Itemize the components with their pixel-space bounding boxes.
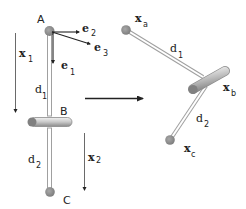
ball-xc [165, 135, 175, 145]
svg-text:3: 3 [103, 49, 108, 58]
svg-text:x: x [223, 81, 230, 94]
label-a: A [37, 13, 45, 26]
label-xb: x b [223, 81, 236, 98]
ball-c [45, 187, 55, 197]
label-x2: x 2 [88, 151, 101, 165]
label-d2-left: d 2 [28, 153, 41, 170]
svg-text:b: b [231, 89, 236, 98]
label-e2: e 2 [82, 22, 96, 38]
svg-text:x: x [135, 12, 142, 25]
label-xa: x a [135, 12, 148, 29]
svg-text:2: 2 [36, 161, 41, 170]
svg-text:1: 1 [28, 55, 33, 64]
label-b: B [60, 105, 68, 118]
ball-xa [121, 25, 131, 35]
label-c: C [63, 194, 71, 207]
svg-text:e: e [82, 22, 89, 35]
svg-text:d: d [28, 153, 35, 166]
tube-b-right [188, 71, 225, 94]
pendulum-diagram: A B C e 2 e 3 e 1 x 1 d 1 d 2 x 2 [0, 0, 246, 209]
label-e1: e 1 [61, 59, 75, 77]
label-xc: x c [184, 142, 195, 159]
label-x1: x 1 [19, 47, 33, 64]
svg-text:1: 1 [70, 68, 75, 77]
label-e3: e 3 [94, 41, 108, 58]
svg-text:e: e [94, 41, 101, 54]
rod-d1-right [128, 31, 203, 77]
svg-text:x: x [184, 142, 191, 155]
svg-text:e: e [61, 59, 68, 72]
svg-text:x: x [19, 47, 26, 60]
svg-text:1: 1 [42, 92, 47, 101]
tube-b-left [28, 118, 73, 127]
svg-text:d: d [170, 42, 177, 55]
svg-text:x: x [88, 151, 95, 164]
svg-text:2: 2 [204, 120, 209, 129]
svg-text:2: 2 [96, 156, 101, 165]
svg-text:d: d [35, 83, 42, 96]
rod-d2-left [48, 128, 52, 188]
svg-text:2: 2 [91, 29, 96, 38]
svg-text:c: c [191, 150, 195, 159]
svg-text:1: 1 [178, 51, 183, 60]
svg-text:a: a [143, 20, 148, 29]
label-d2-right: d 2 [196, 112, 209, 129]
rod-d1-left [48, 33, 52, 116]
label-d1-left: d 1 [35, 83, 47, 101]
svg-text:d: d [196, 112, 203, 125]
